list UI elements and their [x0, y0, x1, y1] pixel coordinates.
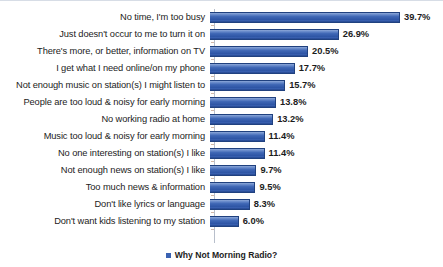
- bar-value-label: 13.8%: [276, 97, 306, 108]
- axis-tick: [211, 229, 214, 230]
- bar-track: 15.7%: [210, 77, 443, 94]
- bar-track: 13.8%: [210, 94, 443, 111]
- bar-value-label: 26.9%: [339, 29, 369, 40]
- bar-chart: No time, I'm too busy39.7%Just doesn't o…: [0, 0, 443, 267]
- category-label: There's more, or better, information on …: [0, 46, 210, 57]
- category-label: People are too loud & noisy for early mo…: [0, 97, 210, 108]
- category-label: No working radio at home: [0, 114, 210, 125]
- bar[interactable]: [210, 97, 276, 108]
- bar-value-label: 20.5%: [308, 46, 338, 57]
- bar-row[interactable]: Too much news & information9.5%: [0, 179, 443, 196]
- bar-track: 8.3%: [210, 196, 443, 213]
- bar-value-label: 6.0%: [239, 216, 264, 227]
- axis-tick: [211, 195, 214, 196]
- bar-track: 9.5%: [210, 179, 443, 196]
- bar[interactable]: [210, 182, 255, 193]
- axis-tick: [211, 178, 214, 179]
- bar[interactable]: [210, 80, 285, 91]
- axis-tick: [211, 25, 214, 26]
- category-label: No time, I'm too busy: [0, 12, 210, 23]
- axis-tick: [211, 127, 214, 128]
- bar-row[interactable]: I get what I need online/on my phone17.7…: [0, 60, 443, 77]
- axis-tick: [211, 76, 214, 77]
- bar-value-label: 11.4%: [265, 131, 295, 142]
- bar-row[interactable]: No time, I'm too busy39.7%: [0, 9, 443, 26]
- bar[interactable]: [210, 131, 265, 142]
- bar-row[interactable]: Not enough music on station(s) I might l…: [0, 77, 443, 94]
- bar-row[interactable]: Music too loud & noisy for early morning…: [0, 128, 443, 145]
- bar-value-label: 9.5%: [255, 182, 280, 193]
- bar-row[interactable]: No one interesting on station(s) I like1…: [0, 145, 443, 162]
- bar-row[interactable]: Don't want kids listening to my station6…: [0, 213, 443, 230]
- bar-value-label: 17.7%: [295, 63, 325, 74]
- bar-row[interactable]: There's more, or better, information on …: [0, 43, 443, 60]
- bar-row[interactable]: No working radio at home13.2%: [0, 111, 443, 128]
- bar-track: 6.0%: [210, 213, 443, 230]
- legend-label: Why Not Morning Radio?: [175, 250, 278, 260]
- bar-row[interactable]: Just doesn't occur to me to turn it on26…: [0, 26, 443, 43]
- bar-value-label: 9.7%: [256, 165, 281, 176]
- bar-value-label: 8.3%: [250, 199, 275, 210]
- bar-value-label: 15.7%: [285, 80, 315, 91]
- legend-swatch-icon: [166, 253, 171, 258]
- bar-row[interactable]: People are too loud & noisy for early mo…: [0, 94, 443, 111]
- bar[interactable]: [210, 199, 250, 210]
- bar-row[interactable]: Don't like lyrics or language8.3%: [0, 196, 443, 213]
- bar-track: 17.7%: [210, 60, 443, 77]
- bar-track: 11.4%: [210, 128, 443, 145]
- bar-rows: No time, I'm too busy39.7%Just doesn't o…: [0, 9, 443, 230]
- category-label: Too much news & information: [0, 182, 210, 193]
- bar-value-label: 13.2%: [273, 114, 303, 125]
- bar-track: 9.7%: [210, 162, 443, 179]
- bar[interactable]: [210, 46, 308, 57]
- bar[interactable]: [210, 216, 239, 227]
- plot-area: No time, I'm too busy39.7%Just doesn't o…: [0, 9, 443, 244]
- bar-value-label: 11.4%: [265, 148, 295, 159]
- bar-row[interactable]: Not enough news on station(s) I like9.7%: [0, 162, 443, 179]
- axis-tick: [211, 93, 214, 94]
- category-label: I get what I need online/on my phone: [0, 63, 210, 74]
- bar-track: 11.4%: [210, 145, 443, 162]
- category-label: Don't want kids listening to my station: [0, 216, 210, 227]
- category-label: Just doesn't occur to me to turn it on: [0, 29, 210, 40]
- bar-track: 13.2%: [210, 111, 443, 128]
- axis-tick: [211, 161, 214, 162]
- category-label: Not enough music on station(s) I might l…: [0, 80, 210, 91]
- bar-track: 26.9%: [210, 26, 443, 43]
- axis-tick: [211, 110, 214, 111]
- bar[interactable]: [210, 63, 295, 74]
- category-label: No one interesting on station(s) I like: [0, 148, 210, 159]
- bar-track: 20.5%: [210, 43, 443, 60]
- bar[interactable]: [210, 12, 400, 23]
- axis-tick: [211, 144, 214, 145]
- bar-value-label: 39.7%: [400, 12, 430, 23]
- bar[interactable]: [210, 148, 265, 159]
- bar[interactable]: [210, 114, 273, 125]
- axis-tick: [211, 42, 214, 43]
- bar[interactable]: [210, 29, 339, 40]
- bar[interactable]: [210, 165, 256, 176]
- axis-tick: [211, 59, 214, 60]
- category-label: Don't like lyrics or language: [0, 199, 210, 210]
- category-label: Not enough news on station(s) I like: [0, 165, 210, 176]
- chart-legend: Why Not Morning Radio?: [0, 250, 443, 260]
- axis-tick: [211, 212, 214, 213]
- category-label: Music too loud & noisy for early morning: [0, 131, 210, 142]
- bar-track: 39.7%: [210, 9, 443, 26]
